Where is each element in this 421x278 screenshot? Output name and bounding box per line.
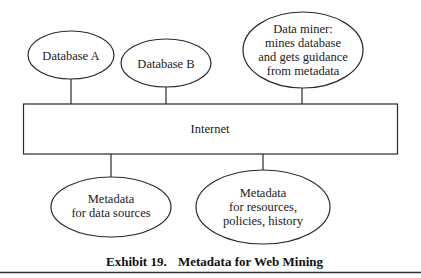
web-mining-metadata-diagram: Database A Database B Data miner: mines … <box>0 0 421 278</box>
figure-caption: Exhibit 19. Metadata for Web Mining <box>106 254 324 269</box>
metadata-data-sources-label-line-1: Metadata <box>88 192 135 206</box>
node-internet: Internet <box>24 104 398 154</box>
metadata-resources-label-line-2: for resources, <box>229 200 297 214</box>
caption-number: Exhibit 19. <box>106 254 167 269</box>
node-metadata-resources: Metadata for resources, policies, histor… <box>196 170 330 244</box>
metadata-resources-label-line-1: Metadata <box>240 186 287 200</box>
caption-title: Metadata for Web Mining <box>178 254 324 269</box>
internet-label: Internet <box>191 122 230 136</box>
data-miner-label-line-4: from metadata <box>267 64 340 78</box>
database-b-label: Database B <box>137 57 194 71</box>
node-metadata-data-sources: Metadata for data sources <box>51 177 171 237</box>
data-miner-label-line-3: and gets guidance <box>258 50 348 64</box>
metadata-resources-label-line-3: policies, history <box>223 214 304 228</box>
data-miner-label-line-2: mines database <box>265 36 341 50</box>
node-database-a: Database A <box>28 31 114 79</box>
database-a-label: Database A <box>42 49 99 63</box>
node-database-b: Database B <box>121 39 211 87</box>
metadata-data-sources-label-line-2: for data sources <box>71 206 150 220</box>
data-miner-label-line-1: Data miner: <box>273 22 332 36</box>
node-data-miner: Data miner: mines database and gets guid… <box>243 12 363 88</box>
